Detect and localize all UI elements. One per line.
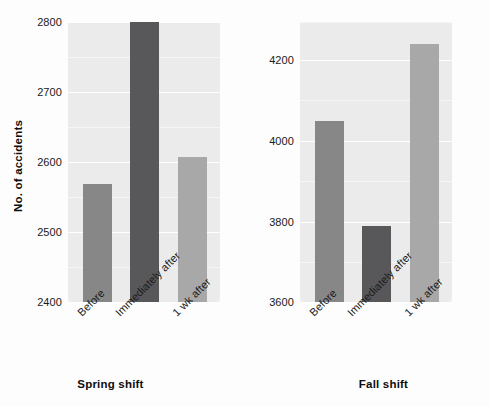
y-tick-label: 2800	[0, 16, 62, 28]
y-tick-label: 4000	[245, 135, 294, 147]
bar-spring-before	[83, 184, 112, 302]
y-tick-label: 2600	[0, 156, 62, 168]
y-tick-label: 2500	[0, 226, 62, 238]
figure-two-panel-bar-chart: No. of accidents 2800 2700 2600 2500 240…	[0, 0, 490, 406]
y-tick-label: 2700	[0, 86, 62, 98]
panel-spring-shift: No. of accidents 2800 2700 2600 2500 240…	[0, 0, 245, 406]
y-tick-label: 3600	[245, 296, 294, 308]
y-tick-label: 4200	[245, 54, 294, 66]
bar-spring-immediately-after	[130, 22, 159, 302]
bar-fall-before	[315, 121, 344, 302]
y-tick-label: 3800	[245, 216, 294, 228]
plot-area	[300, 22, 452, 302]
panel-fall-shift: 4200 4000 3800 3600 Before Immediately a…	[245, 0, 490, 406]
y-tick-label: 2400	[0, 296, 62, 308]
plot-area	[68, 22, 220, 302]
panel-title-spring: Spring shift	[0, 378, 233, 390]
bar-fall-1-wk-after	[410, 44, 439, 302]
gridline-minor	[300, 22, 452, 23]
panel-title-fall: Fall shift	[261, 378, 490, 390]
